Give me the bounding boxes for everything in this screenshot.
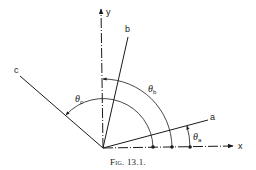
x-axis xyxy=(103,146,233,148)
line-a-label: a xyxy=(210,112,215,122)
line-b xyxy=(103,37,128,148)
theta-a-arc xyxy=(187,126,190,147)
figure-caption: Fig. 13.1. xyxy=(0,157,256,167)
line-b-label: b xyxy=(125,24,130,34)
line-c-label: c xyxy=(14,65,19,75)
arc-start-dot-a xyxy=(188,145,192,149)
theta-b-label: θb xyxy=(148,83,157,95)
x-axis-label: x xyxy=(238,141,243,151)
theta-c-arc xyxy=(66,99,153,147)
theta-c-label: θc xyxy=(75,93,83,105)
arc-start-dot-c xyxy=(151,145,155,149)
arc-start-dot-b xyxy=(170,145,174,149)
theta-b-arc xyxy=(103,79,172,147)
theta-a-label: θa xyxy=(193,131,202,143)
line-c xyxy=(20,76,103,148)
angle-diagram: y x a b c θa θb θc xyxy=(0,0,256,170)
y-axis xyxy=(101,9,103,148)
y-axis-label: y xyxy=(106,7,111,17)
